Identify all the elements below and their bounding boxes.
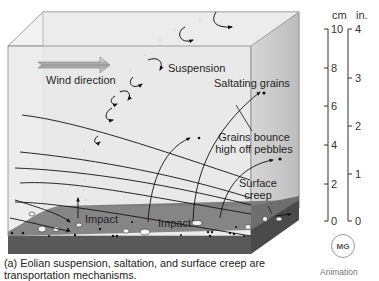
surface-creep-line2: creep [236,189,280,201]
mg-animation-icon[interactable]: MG [331,234,355,258]
figure-caption: (a) Eolian suspension, saltation, and su… [4,258,324,281]
scale-cm [324,29,328,221]
in-tick-4: 4 [355,24,361,35]
ground-front [8,236,251,254]
cm-tick-2: 2 [331,179,337,190]
caption-line1: (a) Eolian suspension, saltation, and su… [4,258,324,270]
scale-in [348,29,352,221]
in-unit-label: in. [356,10,368,21]
wind-direction-label: Wind direction [46,74,116,86]
surface-creep-label: Surface creep [236,177,280,201]
in-tick-0: 0 [355,216,361,227]
cm-unit-label: cm [332,10,347,21]
in-tick-3: 3 [355,73,361,84]
surface-creep-line1: Surface [236,177,280,189]
in-tick-1: 1 [355,169,361,180]
suspension-label: Suspension [168,62,226,74]
grains-bounce-label: Grains bounce high off pebbles [214,131,294,155]
cm-tick-10: 10 [331,24,343,35]
caption-line2: transportation mechanisms. [4,270,324,281]
cm-tick-4: 4 [331,140,337,151]
saltating-grains-label: Saltating grains [214,77,290,89]
in-tick-2: 2 [355,121,361,132]
cm-tick-8: 8 [331,63,337,74]
cm-tick-6: 6 [331,101,337,112]
impact-right-label: Impact [158,217,191,229]
grains-bounce-line2: high off pebbles [214,143,294,155]
cm-tick-0: 0 [331,216,337,227]
animation-label[interactable]: Animation [320,267,358,277]
impact-left-label: Impact [85,213,118,225]
grains-bounce-line1: Grains bounce [214,131,294,143]
